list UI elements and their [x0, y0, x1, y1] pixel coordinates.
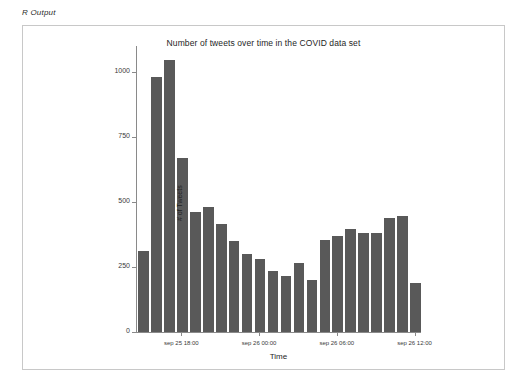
- bar: [281, 276, 292, 332]
- bar: [332, 236, 343, 332]
- x-tick-label: sep 26 06:00: [319, 340, 354, 346]
- bar: [229, 241, 240, 332]
- x-tick-mark: [181, 332, 182, 336]
- bar: [138, 251, 149, 332]
- x-axis-line: [136, 332, 421, 333]
- bar: [242, 254, 253, 332]
- bar: [358, 233, 369, 332]
- bar: [177, 158, 188, 332]
- bar: [397, 216, 408, 332]
- x-tick-mark: [415, 332, 416, 336]
- bar: [255, 259, 266, 332]
- bar: [268, 271, 279, 332]
- bar: [203, 207, 214, 332]
- x-tick-label: sep 26 00:00: [242, 340, 277, 346]
- output-header-label: R Output: [22, 8, 56, 17]
- x-tick-label: sep 25 18:00: [164, 340, 199, 346]
- y-axis-label: # of Tweets: [176, 185, 183, 221]
- y-tick-label: 1000: [114, 67, 130, 74]
- plot-panel: Number of tweets over time in the COVID …: [22, 25, 505, 370]
- y-tick-label: 250: [118, 262, 130, 269]
- bar: [151, 77, 162, 332]
- x-tick-mark: [259, 332, 260, 336]
- bar: [294, 263, 305, 332]
- bar: [190, 212, 201, 332]
- y-tick: 0: [136, 332, 137, 333]
- bar: [164, 60, 175, 332]
- bar: [384, 218, 395, 332]
- y-tick-label: 500: [118, 197, 130, 204]
- x-axis-label: Time: [136, 352, 421, 361]
- bar: [216, 224, 227, 332]
- y-tick-label: 0: [126, 327, 130, 334]
- x-tick-label: sep 26 12:00: [397, 340, 432, 346]
- bar: [371, 233, 382, 332]
- bar: [320, 240, 331, 332]
- bar: [307, 280, 318, 332]
- x-tick-mark: [337, 332, 338, 336]
- plot-area: 02505007501000 sep 25 18:00sep 26 00:00s…: [136, 46, 431, 352]
- bar: [410, 283, 421, 332]
- y-tick-label: 750: [118, 132, 130, 139]
- bar: [345, 229, 356, 332]
- r-output-window: R Output Number of tweets over time in t…: [0, 0, 527, 385]
